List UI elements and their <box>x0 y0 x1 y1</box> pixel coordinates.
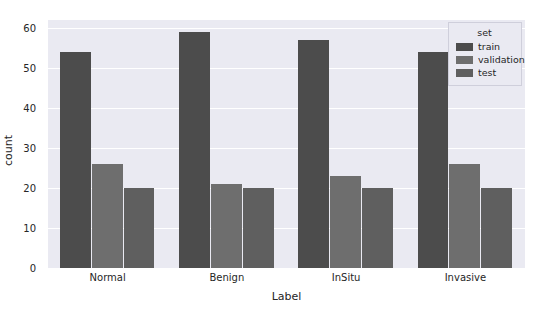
bar-benign-validation <box>211 184 242 268</box>
legend-item-train: train <box>456 41 513 52</box>
bar-normal-validation <box>92 164 123 268</box>
legend-item-test: test <box>456 67 513 78</box>
y-axis-title: count <box>2 121 15 181</box>
x-axis-tick-labels: NormalBenignInSituInvasive <box>48 272 525 288</box>
y-axis-tick-label: 60 <box>23 23 36 34</box>
gridline <box>48 148 525 149</box>
x-axis-tick-label: InSitu <box>332 272 361 283</box>
legend-swatch-icon <box>456 69 473 77</box>
bar-benign-test <box>243 188 274 268</box>
legend-swatch-icon <box>456 43 473 51</box>
y-axis-tick-label: 30 <box>23 143 36 154</box>
bar-insitu-train <box>298 40 329 268</box>
x-axis-tick-label: Invasive <box>445 272 486 283</box>
legend-item-label: test <box>478 67 496 78</box>
bar-invasive-train <box>418 52 449 268</box>
y-axis-tick-label: 10 <box>23 223 36 234</box>
bar-insitu-test <box>362 188 393 268</box>
bar-insitu-validation <box>330 176 361 268</box>
bar-invasive-test <box>481 188 512 268</box>
bar-normal-test <box>124 188 155 268</box>
legend-swatch-icon <box>456 56 473 64</box>
legend-title: set <box>456 27 513 38</box>
bar-normal-train <box>60 52 91 268</box>
legend-entries: trainvalidationtest <box>456 41 513 78</box>
legend: set trainvalidationtest <box>448 22 522 86</box>
x-axis-title: Label <box>48 290 525 303</box>
legend-item-label: validation <box>478 54 525 65</box>
legend-item-label: train <box>478 41 500 52</box>
x-axis-tick-label: Benign <box>209 272 244 283</box>
bar-benign-train <box>179 32 210 268</box>
gridline <box>48 108 525 109</box>
legend-item-validation: validation <box>456 54 513 65</box>
y-axis-tick-label: 0 <box>30 263 36 274</box>
bar-chart-figure: 0102030405060 count NormalBenignInSituIn… <box>0 0 549 312</box>
y-axis-tick-label: 50 <box>23 63 36 74</box>
y-axis-tick-label: 20 <box>23 183 36 194</box>
bar-invasive-validation <box>449 164 480 268</box>
y-axis-tick-label: 40 <box>23 103 36 114</box>
x-axis-tick-label: Normal <box>90 272 126 283</box>
